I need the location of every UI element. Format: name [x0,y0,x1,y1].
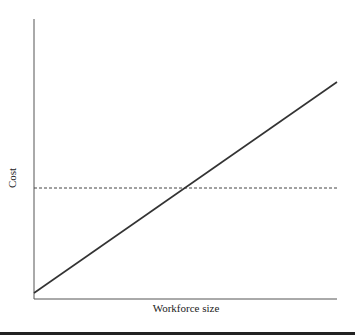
bottom-rule [0,332,355,335]
y-axis-label: Cost [6,168,18,188]
x-axis-label: Workforce size [0,302,355,314]
chart-canvas [0,0,355,336]
